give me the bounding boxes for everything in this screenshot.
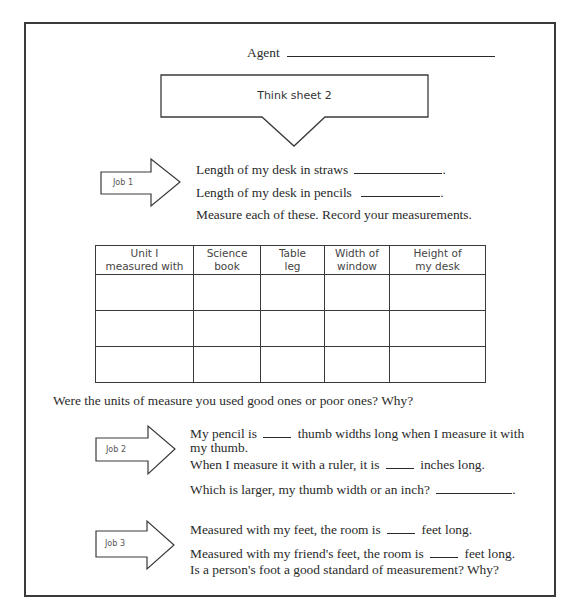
job2-label: Job 2 bbox=[106, 445, 126, 454]
straws-field[interactable] bbox=[354, 161, 442, 174]
units-question: Were the units of measure you used good … bbox=[53, 393, 413, 409]
table-row bbox=[96, 311, 486, 347]
table-row bbox=[96, 347, 486, 383]
table-cell[interactable] bbox=[390, 311, 486, 347]
column-header-desk-height: Height ofmy desk bbox=[390, 246, 486, 275]
job3-line1a: Measured with my feet, the room is bbox=[190, 522, 381, 537]
job3-line3: Is a person's foot a good standard of me… bbox=[190, 562, 499, 578]
job3-line1: Measured with my feet, the room is feet … bbox=[190, 521, 472, 538]
table-cell[interactable] bbox=[96, 275, 194, 311]
column-header-window-width: Width ofwindow bbox=[325, 246, 390, 275]
measurement-table: Unit Imeasured with Sciencebook Tableleg… bbox=[95, 245, 486, 383]
table-cell[interactable] bbox=[96, 311, 194, 347]
column-header-table-leg: Tableleg bbox=[261, 246, 325, 275]
larger-answer-field[interactable] bbox=[436, 481, 512, 494]
period: . bbox=[442, 162, 445, 177]
table-cell[interactable] bbox=[325, 347, 390, 383]
inches-field[interactable] bbox=[386, 456, 414, 469]
column-header-unit: Unit Imeasured with bbox=[96, 246, 194, 275]
my-feet-field[interactable] bbox=[387, 521, 415, 534]
job1-line2: Length of my desk in pencils . bbox=[196, 184, 444, 201]
callout-title: Think sheet 2 bbox=[161, 89, 428, 102]
table-cell[interactable] bbox=[261, 347, 325, 383]
job1-line1-text: Length of my desk in straws bbox=[196, 162, 348, 177]
job2-line1a: My pencil is bbox=[190, 426, 257, 441]
job3-label: Job 3 bbox=[105, 539, 125, 548]
job2-line2b: inches long. bbox=[420, 457, 485, 472]
table-cell[interactable] bbox=[390, 347, 486, 383]
table-cell[interactable] bbox=[325, 311, 390, 347]
table-cell[interactable] bbox=[194, 275, 261, 311]
table-cell[interactable] bbox=[96, 347, 194, 383]
job2-line3: Which is larger, my thumb width or an in… bbox=[190, 481, 516, 498]
table-cell[interactable] bbox=[390, 275, 486, 311]
thumb-widths-field[interactable] bbox=[263, 425, 291, 438]
column-header-science-book: Sciencebook bbox=[194, 246, 261, 275]
table-row bbox=[96, 275, 486, 311]
table-cell[interactable] bbox=[194, 347, 261, 383]
job2-line3-text: Which is larger, my thumb width or an in… bbox=[190, 482, 430, 497]
table-cell[interactable] bbox=[261, 311, 325, 347]
job2-line2: When I measure it with a ruler, it is in… bbox=[190, 456, 485, 473]
job3-line2b: feet long. bbox=[464, 546, 515, 561]
job3-line2: Measured with my friend's feet, the room… bbox=[190, 545, 515, 562]
job2-line2a: When I measure it with a ruler, it is bbox=[190, 457, 379, 472]
table-cell[interactable] bbox=[325, 275, 390, 311]
job3-line2a: Measured with my friend's feet, the room… bbox=[190, 546, 424, 561]
period: . bbox=[512, 482, 515, 497]
job2-line1c: my thumb. bbox=[190, 440, 248, 456]
job3-line1b: feet long. bbox=[422, 522, 473, 537]
job1-line2-text: Length of my desk in pencils bbox=[196, 185, 352, 200]
period: . bbox=[440, 185, 443, 200]
table-cell[interactable] bbox=[194, 311, 261, 347]
job1-instruction: Measure each of these. Record your measu… bbox=[196, 207, 472, 223]
pencils-field[interactable] bbox=[361, 184, 440, 197]
table-cell[interactable] bbox=[261, 275, 325, 311]
job2-line1b: thumb widths long when I measure it with bbox=[298, 426, 525, 441]
friend-feet-field[interactable] bbox=[430, 545, 458, 558]
table-header-row: Unit Imeasured with Sciencebook Tableleg… bbox=[96, 246, 486, 275]
job1-label: Job 1 bbox=[113, 178, 133, 187]
callout-shape bbox=[161, 75, 428, 146]
job1-line1: Length of my desk in straws . bbox=[196, 161, 446, 178]
